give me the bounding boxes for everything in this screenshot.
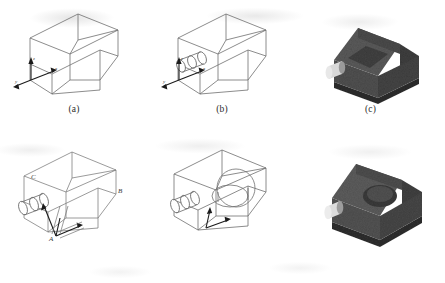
panel-f: (f) bbox=[296, 130, 445, 283]
svg-text:z: z bbox=[180, 56, 183, 61]
svg-text:x: x bbox=[202, 66, 206, 71]
panel-d-label-a: A bbox=[48, 235, 54, 243]
panel-b-caption: (b) bbox=[148, 104, 296, 114]
panel-a: z x y (a) bbox=[0, 0, 148, 130]
pointer-arrows-e bbox=[206, 207, 231, 228]
circular-hole-e bbox=[212, 169, 255, 207]
panel-b: z x y (b) bbox=[148, 0, 296, 130]
panel-d: C B A (d) bbox=[0, 130, 148, 283]
svg-text:y: y bbox=[14, 79, 18, 84]
figure-panel-grid: z x y (a) bbox=[0, 0, 445, 283]
panel-c: (c) bbox=[296, 0, 445, 130]
panel-e: (e) bbox=[148, 130, 296, 283]
panel-d-label-b: B bbox=[118, 187, 123, 195]
svg-text:y: y bbox=[162, 79, 166, 84]
cylinder-feature-d bbox=[17, 192, 50, 216]
panel-f-artwork bbox=[296, 130, 445, 283]
panel-c-caption: (c) bbox=[296, 104, 445, 114]
svg-text:z: z bbox=[32, 56, 35, 61]
panel-e-artwork bbox=[148, 130, 296, 283]
coordinate-axes-a: z x y bbox=[13, 56, 58, 89]
panel-d-artwork: C B A bbox=[0, 130, 148, 283]
svg-text:x: x bbox=[54, 66, 58, 71]
panel-d-label-c: C bbox=[31, 173, 36, 181]
panel-a-caption: (a) bbox=[0, 104, 148, 114]
